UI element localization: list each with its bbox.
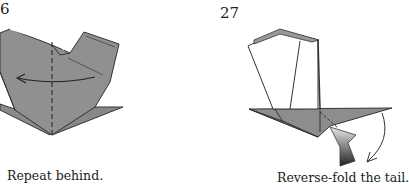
diagram-step-27 xyxy=(248,29,392,166)
caption-step-6: Repeat behind. xyxy=(7,168,103,183)
reverse-fold-arrow xyxy=(368,113,385,161)
caption-step-27: Reverse-fold the tail. xyxy=(277,170,409,185)
push-arrow xyxy=(330,127,356,166)
diagram-step-6 xyxy=(0,29,123,135)
